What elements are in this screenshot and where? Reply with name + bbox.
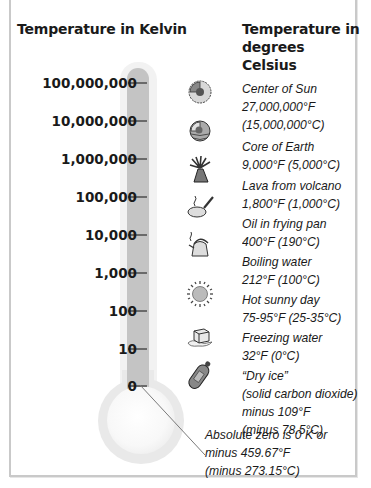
absolute-zero-note: Absolute zero is 0 K or minus 459.67°F (… — [205, 426, 327, 480]
item-value: 9,000°F (5,000°C) — [242, 156, 340, 174]
item-value: minus 109°F — [242, 403, 357, 421]
item-value: 32°F (0°C) — [242, 347, 322, 365]
item-title: Freezing water — [242, 329, 322, 347]
temperature-item: Oil in frying pan400°F (190°C) — [242, 215, 326, 251]
absolute-zero-line: (minus 273.15°C) — [205, 462, 327, 480]
absolute-zero-line: minus 459.67°F — [205, 444, 327, 462]
temperature-item: Core of Earth9,000°F (5,000°C) — [242, 138, 340, 174]
dry-ice-canister-icon — [186, 358, 214, 392]
item-title: “Dry ice” — [242, 367, 357, 385]
item-value: 212°F (100°C) — [242, 271, 320, 289]
ice-cube-icon — [186, 321, 214, 349]
item-value: 1,800°F (1,000°C) — [242, 195, 341, 213]
item-title: Oil in frying pan — [242, 215, 326, 233]
earth-core-icon — [186, 117, 214, 145]
item-title: Core of Earth — [242, 138, 340, 156]
temperature-item: Hot sunny day75-95°F (25-35°C) — [242, 291, 341, 327]
item-value: (solid carbon dioxide) — [242, 385, 357, 403]
temperature-item: Lava from volcano1,800°F (1,000°C) — [242, 177, 341, 213]
temperature-item: Freezing water32°F (0°C) — [242, 329, 322, 365]
frying-pan-icon — [186, 193, 214, 221]
sun-icon — [186, 280, 214, 308]
volcano-icon — [186, 155, 214, 183]
sun-core-icon — [186, 78, 214, 106]
item-title: Boiling water — [242, 253, 320, 271]
absolute-zero-line: Absolute zero is 0 K or — [205, 426, 327, 444]
kettle-icon — [186, 231, 214, 259]
item-title: Hot sunny day — [242, 291, 341, 309]
item-value: (15,000,000°C) — [242, 116, 325, 134]
item-value: 75-95°F (25-35°C) — [242, 309, 341, 327]
item-title: Lava from volcano — [242, 177, 341, 195]
temperature-item: Center of Sun27,000,000°F(15,000,000°C) — [242, 80, 325, 134]
item-value: 27,000,000°F — [242, 98, 325, 116]
item-title: Center of Sun — [242, 80, 325, 98]
temperature-item: Boiling water212°F (100°C) — [242, 253, 320, 289]
item-value: 400°F (190°C) — [242, 233, 326, 251]
